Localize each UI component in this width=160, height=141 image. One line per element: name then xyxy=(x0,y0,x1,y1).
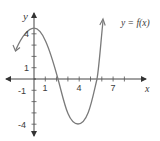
tick-label-y-m1: -1 xyxy=(18,86,26,96)
tick-label-y-4: 4 xyxy=(24,29,29,39)
tick-label-y-1: 1 xyxy=(24,63,29,73)
x-axis-label: x xyxy=(144,83,150,94)
tick-label-y-m4: -4 xyxy=(18,120,26,130)
curve-label: y = f(x) xyxy=(120,18,150,29)
function-graph: y x y = f(x) 1 4 7 4 1 -1 -4 xyxy=(0,0,160,141)
y-axis-label: y xyxy=(22,10,28,22)
function-curve xyxy=(16,21,103,124)
tick-label-x-1: 1 xyxy=(43,83,48,93)
tick-label-x-7: 7 xyxy=(111,83,116,93)
tick-label-x-4: 4 xyxy=(77,83,82,93)
